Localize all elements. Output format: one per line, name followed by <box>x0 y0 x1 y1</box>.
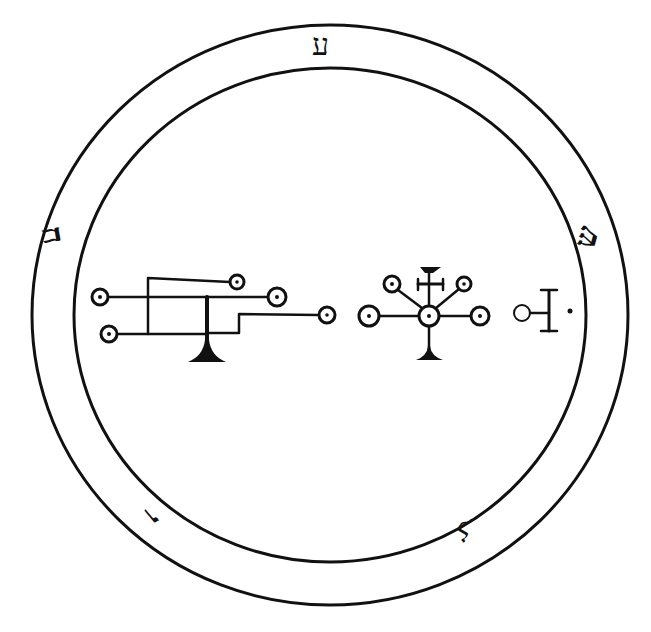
left-sigil-node <box>101 326 117 342</box>
center-sigil <box>359 267 489 360</box>
center-sigil-node <box>384 276 400 292</box>
ring-letter-top: ע <box>312 30 329 60</box>
center-sigil-hub <box>419 306 439 326</box>
left-sigil-node <box>319 307 335 323</box>
left-sigil-node <box>230 275 244 289</box>
left-sigil <box>92 275 335 362</box>
dot-mark <box>568 309 573 314</box>
left-sigil-node <box>268 288 286 306</box>
center-sigil-node <box>457 277 471 291</box>
seal-svg <box>0 0 651 632</box>
center-sigil-node <box>359 306 379 326</box>
left-sigil-node <box>92 289 108 305</box>
right-sigil <box>514 290 573 331</box>
center-sigil-node <box>471 307 489 325</box>
